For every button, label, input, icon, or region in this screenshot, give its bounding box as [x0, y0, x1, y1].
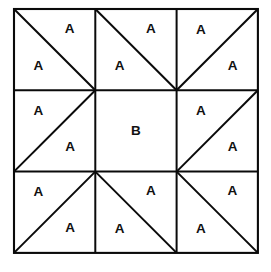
- piece-label-top-right-upper-left: A: [196, 22, 206, 37]
- piece-label-bottom-center-upper-right: A: [146, 183, 156, 198]
- piece-label-center-center: B: [131, 123, 141, 138]
- piece-label-bottom-right-upper-right: A: [227, 183, 237, 198]
- piece-label-middle-left-upper-left: A: [34, 103, 44, 118]
- piece-label-bottom-right-lower-left: A: [196, 221, 206, 236]
- piece-label-middle-right-upper-left: A: [196, 103, 206, 118]
- piece-label-middle-left-lower-right: A: [65, 139, 75, 154]
- piece-label-top-left-lower-left: A: [34, 58, 44, 73]
- piece-label-bottom-center-lower-left: A: [115, 221, 125, 236]
- grid-diagram: AAAAAAAABAAAAAAAA: [0, 0, 271, 272]
- figure-canvas: AAAAAAAABAAAAAAAA: [0, 0, 271, 272]
- piece-label-middle-right-lower-right: A: [228, 139, 238, 154]
- piece-label-top-center-upper-right: A: [146, 21, 156, 36]
- piece-label-bottom-left-lower-right: A: [65, 220, 75, 235]
- piece-label-top-left-upper-right: A: [65, 21, 75, 36]
- piece-label-top-right-lower-right: A: [228, 58, 238, 73]
- piece-label-top-center-lower-left: A: [115, 58, 125, 73]
- piece-label-bottom-left-upper-left: A: [34, 184, 44, 199]
